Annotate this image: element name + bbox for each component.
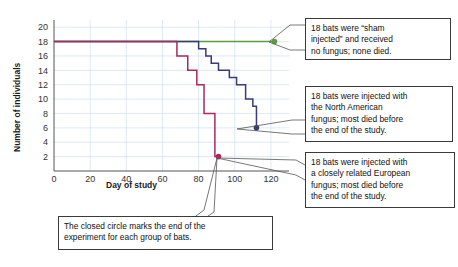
y-tick-label: 18 [38, 37, 48, 47]
annotation-line: a closely related European [311, 168, 449, 179]
closed-circle-annotation: The closed circle marks the end of the e… [58, 216, 273, 250]
annotation-line: no fungus; none died. [311, 46, 445, 57]
annotation-line: The closed circle marks the end of the [64, 221, 267, 232]
y-tick-label: 20 [38, 22, 48, 32]
y-tick-label: 8 [43, 109, 48, 119]
annotation-line: 18 bats were “sham [311, 23, 445, 34]
x-tick-label: 20 [85, 174, 95, 184]
x-tick-label: 80 [194, 174, 204, 184]
x-axis-title: Day of study [106, 180, 157, 190]
gridlines [54, 20, 289, 171]
annotation-line: injected” and received [311, 34, 445, 45]
y-tick-label: 4 [43, 137, 48, 147]
annotation-line: the end of the study. [311, 191, 449, 202]
annotation-line: 18 bats were injected with [311, 91, 447, 102]
y-axis-title: Number of individuals [12, 62, 22, 152]
y-tick-label: 14 [38, 66, 48, 76]
annotation-line: the North American [311, 102, 447, 113]
sham-injected-annotation: 18 bats were “sham injected” and receive… [305, 18, 451, 60]
annotation-line: 18 bats were injected with [311, 157, 449, 168]
y-tick-label: 12 [38, 80, 48, 90]
north-american-fungus-annotation: 18 bats were injected with the North Ame… [305, 86, 453, 142]
annotation-line: the end of the study. [311, 125, 447, 136]
annotation-line: fungus; most died before [311, 114, 447, 125]
x-tick-label: 0 [51, 174, 56, 184]
y-tick-label: 2 [43, 152, 48, 162]
leader-line-closed-circle [196, 158, 217, 216]
x-tick-labels: 020406080100120 [51, 174, 278, 184]
x-tick-label: 60 [157, 174, 167, 184]
leader-line-european [217, 158, 305, 165]
y-tick-labels: 2468101214161820 [38, 22, 48, 161]
y-tick-label: 16 [38, 51, 48, 61]
y-tick-label: 6 [43, 123, 48, 133]
european-fungus-annotation: 18 bats were injected with a closely rel… [305, 152, 455, 208]
annotation-line: fungus; most died before [311, 180, 449, 191]
callout-leader-lines [196, 25, 305, 216]
chart-figure: 020406080100120 2468101214161820 Day of … [0, 0, 458, 267]
axes [54, 20, 289, 171]
x-tick-label: 120 [263, 174, 278, 184]
y-tick-label: 10 [38, 94, 48, 104]
x-tick-label: 100 [227, 174, 242, 184]
annotation-line: experiment for each group of bats. [64, 232, 267, 243]
